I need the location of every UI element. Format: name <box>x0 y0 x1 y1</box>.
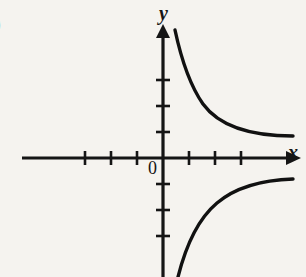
curve-upper-right-branch <box>175 30 293 136</box>
origin-label: 0 <box>148 159 157 177</box>
y-axis-label: y <box>159 3 168 23</box>
x-axis-label: x <box>288 142 298 162</box>
graph-canvas <box>0 0 306 277</box>
curve-lower-right-branch <box>178 179 293 277</box>
figure-part-label: ) <box>0 10 1 37</box>
hyperbola-graph-figure: y x 0 ) <box>0 0 306 277</box>
y-axis-arrowhead <box>156 24 170 38</box>
